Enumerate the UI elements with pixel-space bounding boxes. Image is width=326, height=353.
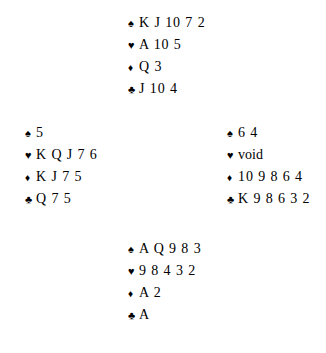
south-heart-row: ♥ 9 8 4 3 2	[128, 260, 202, 282]
west-club-row: ♣ Q 7 5	[25, 188, 98, 210]
hand-south: ♠ A Q 9 8 3 ♥ 9 8 4 3 2 ♦ A 2 ♣ A	[128, 238, 202, 326]
club-icon: ♣	[128, 304, 139, 326]
north-heart-row: ♥ A 10 5	[128, 34, 206, 56]
north-spade-row: ♠ K J 10 7 2	[128, 12, 206, 34]
heart-icon: ♥	[128, 34, 139, 56]
hand-north: ♠ K J 10 7 2 ♥ A 10 5 ♦ Q 3 ♣ J 10 4	[128, 12, 206, 100]
north-diamond-row: ♦ Q 3	[128, 56, 206, 78]
east-heart-row: ♥ void	[227, 144, 311, 166]
south-club-cards: A	[139, 304, 150, 326]
west-spade-cards: 5	[36, 122, 44, 144]
heart-icon: ♥	[227, 144, 238, 166]
heart-icon: ♥	[128, 260, 139, 282]
south-diamond-row: ♦ A 2	[128, 282, 202, 304]
south-spade-row: ♠ A Q 9 8 3	[128, 238, 202, 260]
east-spade-cards: 6 4	[238, 122, 258, 144]
hand-west: ♠ 5 ♥ K Q J 7 6 ♦ K J 7 5 ♣ Q 7 5	[25, 122, 98, 210]
north-club-cards: J 10 4	[139, 78, 178, 100]
east-club-cards: K 9 8 6 3 2	[238, 188, 311, 210]
spade-icon: ♠	[128, 238, 139, 260]
diamond-icon: ♦	[25, 167, 36, 189]
hand-east: ♠ 6 4 ♥ void ♦ 10 9 8 6 4 ♣ K 9 8 6 3 2	[227, 122, 311, 210]
west-diamond-row: ♦ K J 7 5	[25, 166, 98, 188]
heart-icon: ♥	[25, 144, 36, 166]
south-club-row: ♣ A	[128, 304, 202, 326]
west-heart-row: ♥ K Q J 7 6	[25, 144, 98, 166]
south-spade-cards: A Q 9 8 3	[139, 238, 202, 260]
west-spade-row: ♠ 5	[25, 122, 98, 144]
east-club-row: ♣ K 9 8 6 3 2	[227, 188, 311, 210]
west-heart-cards: K Q J 7 6	[36, 144, 98, 166]
east-diamond-cards: 10 9 8 6 4	[238, 166, 303, 188]
bridge-hand-diagram: ♠ K J 10 7 2 ♥ A 10 5 ♦ Q 3 ♣ J 10 4 ♠ 5…	[0, 0, 326, 353]
south-heart-cards: 9 8 4 3 2	[139, 260, 196, 282]
spade-icon: ♠	[25, 122, 36, 144]
east-diamond-row: ♦ 10 9 8 6 4	[227, 166, 311, 188]
diamond-icon: ♦	[227, 167, 238, 189]
west-diamond-cards: K J 7 5	[36, 166, 82, 188]
spade-icon: ♠	[128, 12, 139, 34]
south-diamond-cards: A 2	[139, 282, 162, 304]
east-heart-cards: void	[238, 144, 263, 166]
west-club-cards: Q 7 5	[36, 188, 72, 210]
diamond-icon: ♦	[128, 283, 139, 305]
north-spade-cards: K J 10 7 2	[139, 12, 206, 34]
east-spade-row: ♠ 6 4	[227, 122, 311, 144]
club-icon: ♣	[128, 78, 139, 100]
north-diamond-cards: Q 3	[139, 56, 162, 78]
club-icon: ♣	[227, 188, 238, 210]
spade-icon: ♠	[227, 122, 238, 144]
diamond-icon: ♦	[128, 57, 139, 79]
north-club-row: ♣ J 10 4	[128, 78, 206, 100]
north-heart-cards: A 10 5	[139, 34, 182, 56]
club-icon: ♣	[25, 188, 36, 210]
